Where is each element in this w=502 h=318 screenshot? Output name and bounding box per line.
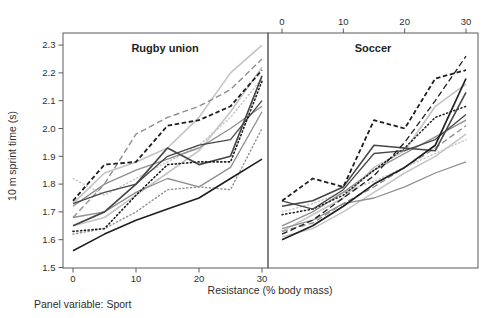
y-tick-label: 1.6	[42, 234, 55, 245]
y-axis-title: 10 m sprint time (s)	[6, 111, 18, 201]
y-tick-label: 2.3	[42, 39, 55, 50]
series-line-soccer-5	[282, 115, 466, 210]
x-tick-label: 30	[461, 16, 472, 27]
x-tick-label: 10	[131, 273, 142, 284]
x-tick-label: 0	[70, 273, 75, 284]
y-tick-label: 1.7	[42, 206, 55, 217]
panel-variable-note: Panel variable: Sport	[34, 298, 132, 310]
x-tick-label: 20	[399, 16, 410, 27]
series-line-rugby-3	[73, 76, 262, 226]
y-tick-label: 1.8	[42, 178, 55, 189]
y-tick-label: 1.5	[42, 262, 55, 273]
x-tick-label: 0	[279, 16, 284, 27]
series-line-soccer-4	[282, 92, 466, 206]
y-tick-label: 2.0	[42, 123, 55, 134]
series-line-rugby-9	[73, 45, 262, 204]
series-line-rugby-7	[73, 79, 262, 196]
y-tick-label: 2.2	[42, 67, 55, 78]
sprint-time-panel-chart: 010203001020301.51.61.71.81.92.02.12.22.…	[0, 0, 502, 318]
series-lines	[73, 45, 466, 251]
panel-title-rugby-union: Rugby union	[131, 42, 198, 54]
chart-canvas: 010203001020301.51.61.71.81.92.02.12.22.…	[0, 0, 502, 318]
series-line-soccer-11	[282, 162, 466, 229]
x-axis-title: Resistance (% body mass)	[208, 284, 333, 296]
y-tick-label: 1.9	[42, 151, 55, 162]
x-tick-label: 10	[338, 16, 349, 27]
panel-title-soccer: Soccer	[355, 42, 392, 54]
x-tick-label: 20	[194, 273, 205, 284]
y-tick-label: 2.1	[42, 95, 55, 106]
x-tick-label: 30	[257, 273, 268, 284]
